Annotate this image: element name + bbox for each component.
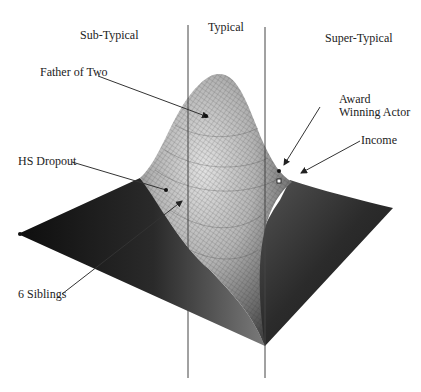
arrow-award-winning-actor <box>284 107 320 165</box>
region-label-super-typical: Super-Typical <box>325 32 393 45</box>
marker-hs-dropout <box>164 188 168 192</box>
region-label-sub-typical: Sub-Typical <box>80 29 138 42</box>
annotation-winning-actor: Winning Actor <box>339 106 410 119</box>
annotation-6-siblings: 6 Siblings <box>18 288 66 301</box>
marker-award-winning-actor <box>277 169 281 173</box>
surface-plot <box>0 0 421 392</box>
left-tip-marker <box>18 232 22 236</box>
marker-income <box>277 179 281 183</box>
bell-surface-diagram: Sub-Typical Typical Super-Typical Father… <box>0 0 421 392</box>
annotation-father-of-two: Father of Two <box>40 66 108 79</box>
marker-father-of-two <box>204 114 208 118</box>
annotation-hs-dropout: HS Dropout <box>18 155 76 168</box>
region-label-typical: Typical <box>208 21 244 34</box>
arrow-income <box>301 141 360 173</box>
annotation-income: Income <box>361 134 397 147</box>
